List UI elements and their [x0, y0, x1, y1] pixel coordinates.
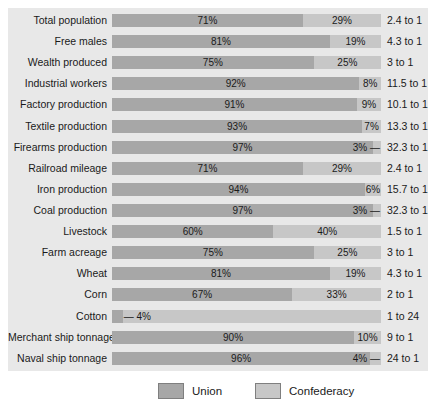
stacked-bar: 71%29% [112, 162, 381, 175]
union-percent-label: 81% [211, 35, 231, 48]
union-segment: 81% [112, 35, 330, 48]
category-label: Firearms production [8, 141, 112, 154]
confederacy-percent-label: 3% — [353, 204, 380, 217]
ratio-label: 11.5 to 1 [387, 77, 427, 90]
legend-label-confederacy: Confederacy [289, 385, 354, 397]
union-segment: 97% [112, 141, 373, 154]
category-label: Livestock [8, 225, 112, 238]
confederacy-percent-label: 40% [317, 225, 337, 238]
confederacy-segment: 25% [314, 56, 381, 69]
union-segment: 97% [112, 204, 373, 217]
union-percent-label: 67% [192, 288, 212, 301]
union-swatch-icon [158, 383, 184, 399]
confederacy-percent-label: 33% [327, 288, 347, 301]
chart-row: Factory production91%9%10.1 to 1 [8, 98, 428, 111]
chart-row: Wealth produced75%25%3 to 1 [8, 56, 428, 69]
confederacy-percent-label: 8% [363, 77, 377, 90]
ratio-label: 4.3 to 1 [387, 267, 422, 280]
legend-label-union: Union [192, 385, 222, 397]
stacked-bar: 60%40% [112, 225, 381, 238]
confederacy-percent-label: 25% [337, 56, 357, 69]
stacked-bar: 97%3% — [112, 204, 381, 217]
union-percent-label: 90% [223, 331, 243, 344]
chart-row: Firearms production97%3% —32.3 to 1 [8, 141, 428, 154]
union-segment: 90% [112, 331, 354, 344]
confederacy-segment: 8% [359, 77, 381, 90]
ratio-label: 1 to 24 [387, 310, 419, 323]
chart-row: Railroad mileage71%29%2.4 to 1 [8, 162, 428, 175]
chart-row: Iron production94%6%15.7 to 1 [8, 183, 428, 196]
union-segment [112, 310, 123, 323]
confederacy-percent-label: 9% [362, 98, 376, 111]
category-label: Wealth produced [8, 56, 112, 69]
union-segment: 75% [112, 56, 314, 69]
category-label: Coal production [8, 204, 112, 217]
confederacy-percent-label: 6% [366, 183, 380, 196]
category-label: Naval ship tonnage [8, 352, 112, 365]
ratio-label: 24 to 1 [387, 352, 419, 365]
ratio-label: 3 to 1 [387, 246, 413, 259]
union-segment: 75% [112, 246, 314, 259]
chart-row: Textile production93%7%13.3 to 1 [8, 120, 428, 133]
stacked-bar: 97%3% — [112, 141, 381, 154]
ratio-label: 13.3 to 1 [387, 120, 428, 133]
confederacy-percent-label: 4% — [353, 352, 380, 365]
confederacy-swatch-icon [255, 383, 281, 399]
legend: Union Confederacy [158, 383, 354, 399]
chart-row: Naval ship tonnage96%4% —24 to 1 [8, 352, 428, 365]
union-percent-label: 96% [231, 352, 251, 365]
category-label: Factory production [8, 98, 112, 111]
confederacy-percent-label: 25% [337, 246, 357, 259]
confederacy-segment: 33% [292, 288, 381, 301]
union-segment: 60% [112, 225, 273, 238]
union-percent-label: 91% [224, 98, 244, 111]
stacked-bar: 94%6% [112, 183, 381, 196]
union-segment: 71% [112, 162, 303, 175]
union-segment: 93% [112, 120, 362, 133]
category-label: Free males [8, 35, 112, 48]
chart-row: Merchant ship tonnage90%10%9 to 1 [8, 331, 428, 344]
confederacy-percent-label: 19% [345, 35, 365, 48]
union-segment: 94% [112, 183, 365, 196]
stacked-bar: 67%33% [112, 288, 381, 301]
confederacy-segment: 29% [303, 14, 381, 27]
confederacy-segment: 29% [303, 162, 381, 175]
category-label: Iron production [8, 183, 112, 196]
ratio-label: 2.4 to 1 [387, 162, 422, 175]
confederacy-segment: 9% [357, 98, 381, 111]
stacked-bar: 91%9% [112, 98, 381, 111]
ratio-label: 32.3 to 1 [387, 204, 428, 217]
category-label: Wheat [8, 267, 112, 280]
stacked-bar: 81%19% [112, 35, 381, 48]
chart-row: Farm acreage75%25%3 to 1 [8, 246, 428, 259]
union-segment: 71% [112, 14, 303, 27]
union-percent-label: 93% [227, 120, 247, 133]
category-label: Industrial workers [8, 77, 112, 90]
confederacy-segment: 40% [273, 225, 381, 238]
chart-row: Livestock60%40%1.5 to 1 [8, 225, 428, 238]
category-label: Total population [8, 14, 112, 27]
chart-row: Wheat81%19%4.3 to 1 [8, 267, 428, 280]
union-percent-label: 71% [197, 14, 217, 27]
union-percent-label: 75% [203, 56, 223, 69]
chart-panel: Total population71%29%2.4 to 1Free males… [8, 8, 428, 371]
stacked-bar: — 4% [112, 310, 381, 323]
confederacy-segment: 19% [330, 35, 381, 48]
confederacy-segment: 7% [362, 120, 381, 133]
stacked-bar: 75%25% [112, 56, 381, 69]
stacked-bar: 90%10% [112, 331, 381, 344]
legend-item-union: Union [158, 383, 222, 399]
ratio-label: 10.1 to 1 [387, 98, 428, 111]
ratio-label: 15.7 to 1 [387, 183, 428, 196]
union-segment: 96% [112, 352, 370, 365]
union-percent-label: 92% [226, 77, 246, 90]
category-label: Corn [8, 288, 112, 301]
ratio-label: 3 to 1 [387, 56, 413, 69]
category-label: Cotton [8, 310, 112, 323]
union-percent-label: — 4% [123, 310, 151, 323]
chart-row: Corn67%33%2 to 1 [8, 288, 428, 301]
stacked-bar: 96%4% — [112, 352, 381, 365]
union-segment: 67% [112, 288, 292, 301]
confederacy-percent-label: 10% [358, 331, 378, 344]
chart-row: Free males81%19%4.3 to 1 [8, 35, 428, 48]
